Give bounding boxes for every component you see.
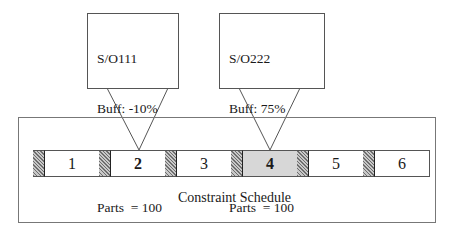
setup-block-hatch: [165, 150, 177, 177]
job-label: 4: [266, 155, 274, 173]
callout-order-id: S/O222: [229, 51, 324, 68]
setup-block-hatch: [363, 150, 375, 177]
schedule-job-2: 2: [111, 150, 165, 177]
schedule-job-1: 1: [45, 150, 99, 177]
schedule-bar: 1 2 3 4 5 6: [33, 150, 430, 177]
job-label: 5: [332, 155, 340, 173]
schedule-job-3: 3: [177, 150, 231, 177]
job-label: 3: [200, 155, 208, 173]
job-label: 2: [134, 155, 142, 173]
setup-block-hatch: [99, 150, 111, 177]
job-label: 1: [68, 155, 76, 173]
schedule-job-4: 4: [243, 150, 297, 177]
schedule-caption: Constraint Schedule: [0, 190, 469, 206]
callout-buffer: Buff: 75%: [229, 101, 324, 118]
schedule-job-6: 6: [375, 150, 430, 177]
callout-order-id: S/O111: [97, 51, 178, 68]
setup-block-hatch: [297, 150, 309, 177]
callout-buffer: Buff: -10%: [97, 101, 178, 118]
callout-so111: S/O111 Buff: -10% Tpp = 15 min Parts = 1…: [87, 13, 179, 89]
setup-block-hatch: [231, 150, 243, 177]
job-label: 6: [398, 155, 406, 173]
schedule-job-5: 5: [309, 150, 363, 177]
callout-so222: S/O222 Buff: 75% Tpp = 20 min Parts = 10…: [219, 13, 325, 89]
setup-block-hatch: [33, 150, 45, 177]
